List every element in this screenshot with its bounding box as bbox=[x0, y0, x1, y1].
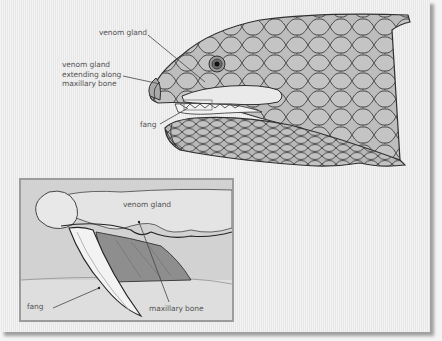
label-line-1: venom gland bbox=[62, 60, 121, 70]
eye-icon bbox=[209, 56, 225, 72]
inset-detail-panel: venom gland fang maxillary bone bbox=[19, 178, 234, 322]
label-line-3: maxillary bone bbox=[62, 79, 121, 89]
label-fang: fang bbox=[140, 120, 156, 130]
inset-label-fang: fang bbox=[27, 302, 43, 312]
label-venom-gland-extending: venom gland extending along maxillary bo… bbox=[62, 60, 121, 89]
inset-label-maxillary-bone: maxillary bone bbox=[149, 304, 203, 314]
figure-page: venom gland venom gland extending along … bbox=[0, 0, 430, 332]
label-venom-gland: venom gland bbox=[99, 28, 147, 38]
inset-label-venom-gland: venom gland bbox=[123, 200, 171, 210]
label-line-2: extending along bbox=[62, 70, 121, 80]
